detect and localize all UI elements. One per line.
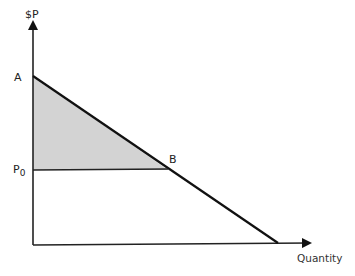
y-axis-label: $P [25,8,39,21]
p0-label: P0 [13,163,26,178]
p0-subscript: 0 [20,168,26,178]
x-axis-label: Quantity [297,252,342,264]
point-b-label: B [169,153,177,166]
price-line-p0 [33,169,168,170]
surplus-diagram: $P A B P0 Quantity [0,0,355,276]
point-a-label: A [14,71,22,84]
x-axis [33,243,310,245]
